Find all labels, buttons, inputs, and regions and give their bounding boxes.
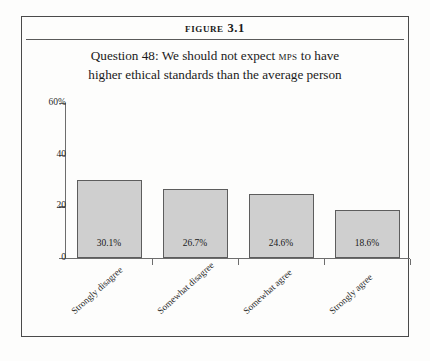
y-tick-label: 40: [32, 149, 66, 159]
category-label: Somewhat disagree: [155, 260, 216, 316]
bar-value-label: 26.7%: [164, 238, 227, 248]
bar: 24.6%: [249, 194, 314, 258]
x-tick-mark: [238, 259, 239, 265]
bar-chart-plot-area: 0204060% 30.1%26.7%24.6%18.6% Strongly d…: [22, 17, 410, 338]
y-tick-label: 20: [32, 200, 66, 210]
y-tick-label: 60%: [32, 97, 66, 107]
bar-value-label: 30.1%: [78, 238, 141, 248]
bar-value-label: 18.6%: [336, 238, 399, 248]
y-axis-line: [65, 103, 66, 259]
x-tick-mark: [410, 259, 411, 265]
bar: 26.7%: [163, 189, 228, 258]
category-label: Strongly agree: [327, 272, 374, 316]
bar: 30.1%: [77, 180, 142, 258]
y-tick-label: 0: [32, 252, 66, 262]
bar-value-label: 24.6%: [250, 238, 313, 248]
figure-frame: Figure 3.1 Question 48: We should not ex…: [21, 16, 409, 337]
category-label: Somewhat agree: [241, 267, 294, 316]
x-tick-mark: [324, 259, 325, 265]
category-label: Strongly disagree: [69, 265, 124, 316]
bar: 18.6%: [335, 210, 400, 258]
x-tick-mark: [152, 259, 153, 265]
